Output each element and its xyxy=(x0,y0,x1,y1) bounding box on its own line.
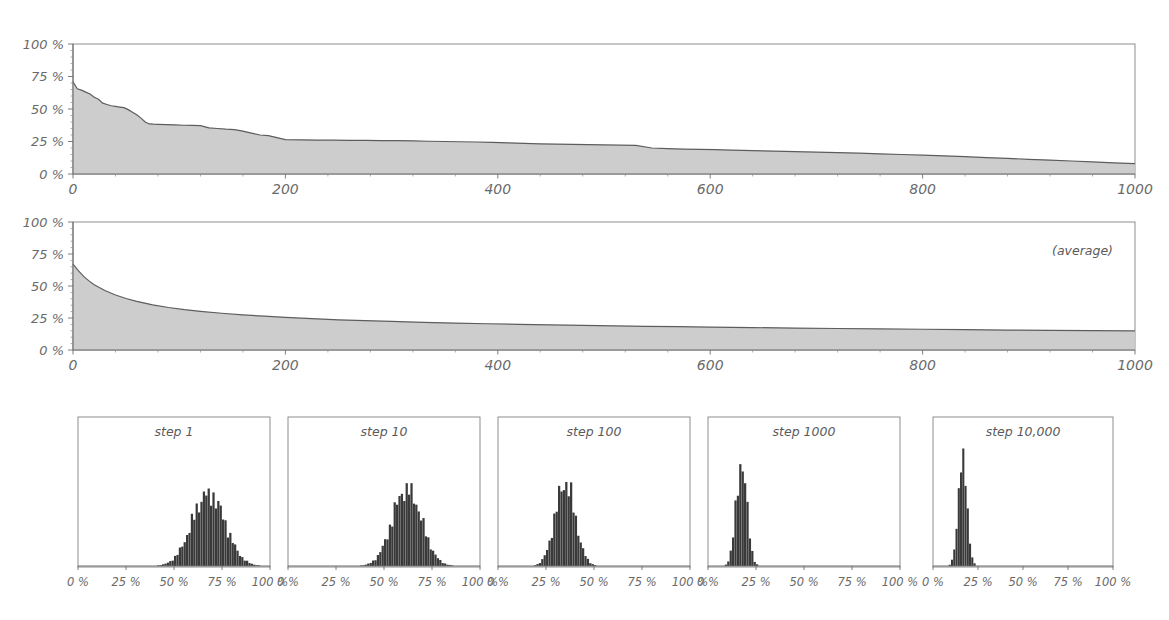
hist-bar xyxy=(744,483,746,566)
hist-bar xyxy=(246,561,248,566)
hist-x-ticklabel: 75 % xyxy=(837,575,866,589)
hist-x-ticklabel: 0 % xyxy=(67,575,89,589)
hist-bar xyxy=(394,502,396,566)
hist-bar xyxy=(239,556,241,566)
hist-bar xyxy=(551,538,553,566)
figure-canvas: 0 %25 %50 %75 %100 %02004006008001000 0 … xyxy=(0,0,1169,620)
hist-bar xyxy=(179,548,181,566)
hist-bar xyxy=(198,512,200,566)
hist-bar xyxy=(241,557,243,566)
hist-bar xyxy=(732,537,734,566)
gen-avg-y-ticklabel: 75 % xyxy=(31,247,64,262)
hist-bar xyxy=(229,533,231,566)
hist-x-ticklabel: 0 % xyxy=(487,575,509,589)
hist-bar xyxy=(415,505,417,566)
histogram-panel: step 100 %25 %50 %75 %100 % xyxy=(277,417,498,589)
hist-bar xyxy=(186,535,188,566)
hist-bar xyxy=(422,518,424,566)
hist-bar xyxy=(379,552,381,566)
hist-bar xyxy=(560,491,562,566)
hist-bar xyxy=(389,525,391,566)
hist-bar xyxy=(391,527,393,566)
gen-top-x-ticklabel: 600 xyxy=(697,181,724,197)
hist-bar xyxy=(971,557,973,566)
hist-bar xyxy=(434,555,436,566)
hist-bar xyxy=(181,547,183,566)
hist-x-ticklabel: 100 % xyxy=(1095,575,1132,589)
hist-bar xyxy=(956,529,958,566)
hist-x-ticklabel: 50 % xyxy=(579,575,608,589)
hist-title: step 1 xyxy=(155,424,194,439)
gen-avg-annotation: (average) xyxy=(1052,243,1113,258)
hist-x-ticklabel: 50 % xyxy=(369,575,398,589)
gen-avg-x-ticklabel: 600 xyxy=(697,357,724,373)
hist-bar xyxy=(406,483,408,566)
hist-bar xyxy=(174,556,176,566)
hist-bar xyxy=(556,512,558,566)
hist-bar xyxy=(210,506,212,566)
histogram-panel: step 10,0000 %25 %50 %75 %100 % xyxy=(922,417,1131,589)
hist-bar xyxy=(439,560,441,566)
hist-bar xyxy=(205,496,207,566)
hist-bar xyxy=(546,550,548,566)
hist-bar xyxy=(746,502,748,566)
hist-bar xyxy=(193,520,195,566)
hist-x-ticklabel: 75 % xyxy=(417,575,446,589)
histogram-panel: step 10000 %25 %50 %75 %100 % xyxy=(697,417,918,589)
hist-bar xyxy=(191,514,193,566)
hist-bar xyxy=(437,558,439,566)
hist-bar xyxy=(169,561,171,566)
gen-top-y-ticklabel: 100 % xyxy=(23,37,64,52)
hist-bar xyxy=(568,496,570,566)
hist-bar xyxy=(730,551,732,566)
hist-bar xyxy=(217,501,219,566)
hist-x-ticklabel: 0 % xyxy=(697,575,719,589)
hist-bar xyxy=(587,559,589,566)
hist-bar xyxy=(580,542,582,566)
hist-bar xyxy=(401,494,403,566)
hist-x-ticklabel: 75 % xyxy=(1053,575,1082,589)
hist-x-ticklabel: 25 % xyxy=(963,575,992,589)
chart-top-trace: 0 %25 %50 %75 %100 %02004006008001000 xyxy=(23,37,1153,198)
hist-bar xyxy=(418,512,420,567)
hist-bar xyxy=(408,495,410,566)
gen-top-x-ticklabel: 200 xyxy=(272,181,299,197)
hist-bar xyxy=(565,482,567,566)
hist-bar xyxy=(577,536,579,566)
gen-avg-y-ticklabel: 25 % xyxy=(31,311,64,326)
hist-bar xyxy=(430,549,432,566)
hist-bar xyxy=(541,559,543,566)
gen-top-y-ticklabel: 50 % xyxy=(31,102,64,117)
hist-bar xyxy=(196,504,198,567)
hist-bar xyxy=(212,492,214,566)
gen-top-area-fill xyxy=(73,82,1135,174)
hist-bar xyxy=(203,492,205,566)
gen-avg-y-ticklabel: 0 % xyxy=(39,343,64,358)
hist-bar xyxy=(953,549,955,566)
histogram-row: step 10 %25 %50 %75 %100 %step 100 %25 %… xyxy=(67,417,1131,589)
gen-avg-x-ticklabel: 200 xyxy=(272,357,299,373)
gen-avg-y-ticklabel: 50 % xyxy=(31,279,64,294)
hist-title: step 10 xyxy=(361,424,408,439)
hist-title: step 10,000 xyxy=(986,424,1061,439)
chart-average-trace: 0 %25 %50 %75 %100 %02004006008001000(av… xyxy=(23,215,1153,374)
hist-frame xyxy=(78,417,270,567)
hist-bar xyxy=(425,536,427,566)
hist-bar xyxy=(962,448,964,566)
hist-bar xyxy=(232,543,234,566)
gen-avg-x-ticklabel: 800 xyxy=(909,357,936,373)
hist-x-ticklabel: 25 % xyxy=(111,575,140,589)
hist-bar xyxy=(563,490,565,566)
gen-avg-x-ticklabel: 1000 xyxy=(1117,357,1153,373)
hist-title: step 100 xyxy=(567,424,622,439)
hist-bar xyxy=(558,486,560,566)
hist-x-ticklabel: 75 % xyxy=(627,575,656,589)
hist-bar xyxy=(951,560,953,566)
figure-root: 0 %25 %50 %75 %100 %02004006008001000 0 … xyxy=(0,0,1169,620)
hist-bar xyxy=(398,496,400,566)
hist-bar xyxy=(967,508,969,566)
hist-bar xyxy=(234,544,236,566)
hist-bar xyxy=(544,555,546,566)
hist-x-ticklabel: 25 % xyxy=(531,575,560,589)
hist-bar xyxy=(188,533,190,566)
